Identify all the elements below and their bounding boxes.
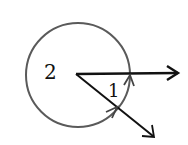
- angle-label-1: 1: [108, 80, 119, 101]
- arc-arrowhead-lower-icon: [106, 107, 117, 118]
- ray-horizontal: [76, 73, 178, 74]
- angle-label-2: 2: [44, 60, 57, 84]
- angle-diagram: 2 1: [0, 0, 188, 145]
